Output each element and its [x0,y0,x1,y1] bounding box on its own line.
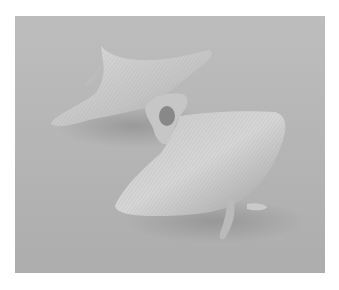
photo [15,16,325,273]
sculpture-illustration [15,16,325,273]
